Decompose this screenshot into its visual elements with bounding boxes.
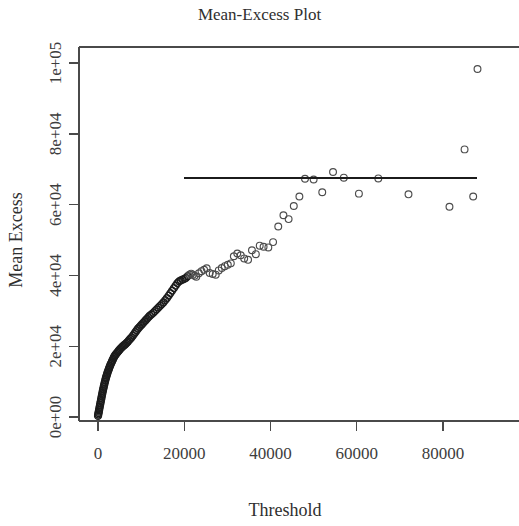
data-point [474, 66, 481, 73]
chart-canvas: Mean-Excess Plot 020000400006000080000 0… [0, 0, 519, 526]
x-axis-title: Threshold [249, 500, 322, 520]
data-point [461, 146, 468, 153]
data-point [319, 189, 326, 196]
data-point-series [95, 66, 481, 420]
x-tick-label: 60000 [336, 444, 379, 463]
y-tick-label: 1e+05 [46, 42, 65, 85]
data-point [275, 223, 282, 230]
y-tick-label: 4e+04 [46, 254, 65, 297]
y-axis-title: Mean Excess [6, 192, 26, 287]
x-tick-label: 40000 [249, 444, 292, 463]
x-tick-label: 0 [94, 444, 103, 463]
y-tick-label: 2e+04 [46, 324, 65, 367]
data-point [330, 169, 337, 176]
y-tick-label: 8e+04 [46, 112, 65, 155]
data-point [285, 216, 292, 223]
x-tick-label: 20000 [163, 444, 206, 463]
y-tick-label: 0e+00 [46, 396, 65, 439]
data-point [296, 193, 303, 200]
mean-excess-plot-figure: Mean-Excess Plot 020000400006000080000 0… [0, 0, 519, 526]
x-axis-ticks: 020000400006000080000 [94, 421, 465, 463]
chart-title: Mean-Excess Plot [198, 5, 322, 24]
data-point [470, 193, 477, 200]
data-point [252, 251, 259, 258]
y-axis-ticks: 0e+002e+044e+046e+048e+041e+05 [46, 42, 79, 439]
data-point [249, 247, 256, 254]
y-tick-label: 6e+04 [46, 183, 65, 226]
data-point [290, 203, 297, 210]
data-point [405, 191, 412, 198]
data-point [270, 239, 277, 246]
data-point [356, 190, 363, 197]
data-point [245, 256, 252, 263]
data-point [446, 203, 453, 210]
x-tick-label: 80000 [422, 444, 465, 463]
